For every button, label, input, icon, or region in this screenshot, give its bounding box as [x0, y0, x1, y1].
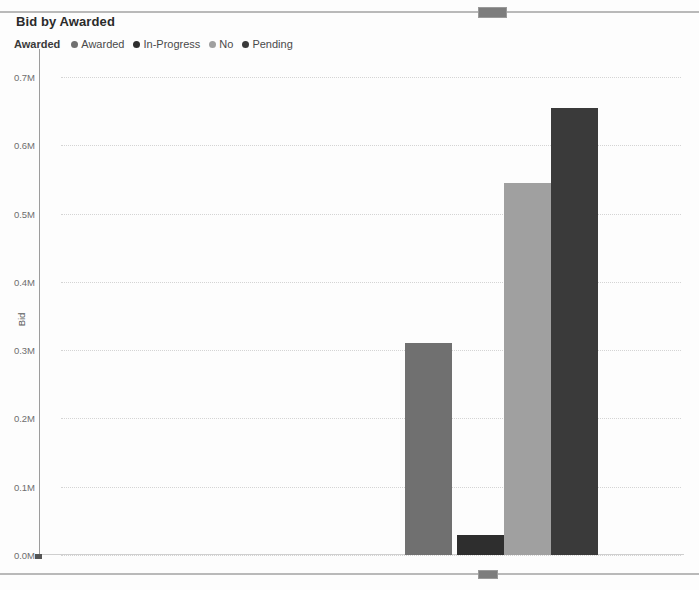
horizontal-scrollbar-bottom-thumb[interactable] — [478, 570, 498, 579]
y-tick-0.7M: 0.7M — [5, 72, 35, 83]
y-tick-0.1M: 0.1M — [5, 481, 35, 492]
y-tick-0.4M: 0.4M — [5, 276, 35, 287]
y-tick-0.2M: 0.2M — [5, 413, 35, 424]
chart-title: Bid by Awarded — [16, 14, 115, 29]
horizontal-scrollbar-bottom-track[interactable] — [0, 573, 699, 575]
horizontal-scrollbar-top-track[interactable] — [0, 11, 699, 13]
legend-swatch-in-progress — [133, 41, 140, 48]
y-tick-0.5M: 0.5M — [5, 208, 35, 219]
legend-swatch-pending — [242, 41, 249, 48]
chart-screenshot: Bid by Awarded Awarded Awarded In-Progre… — [0, 0, 699, 590]
y-tick-0.0M: 0.0M — [5, 550, 35, 561]
bar-awarded[interactable] — [405, 343, 452, 555]
y-tick-0.3M: 0.3M — [5, 345, 35, 356]
plot-area: Bid 0.0M0.1M0.2M0.3M0.4M0.5M0.6M0.7M — [39, 49, 684, 559]
y-axis-title: Bid — [16, 313, 27, 327]
legend-swatch-no — [209, 41, 216, 48]
bars-layer — [39, 49, 684, 559]
bar-in-progress[interactable] — [457, 535, 504, 555]
legend-swatch-awarded — [71, 41, 78, 48]
bar-pending[interactable] — [551, 108, 598, 555]
bar-no[interactable] — [504, 183, 551, 555]
bid-by-awarded-chart: Bid by Awarded Awarded Awarded In-Progre… — [0, 14, 699, 570]
y-tick-0.6M: 0.6M — [5, 140, 35, 151]
